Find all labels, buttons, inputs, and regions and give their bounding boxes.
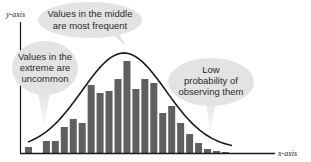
histogram-bar: [43, 141, 50, 153]
histogram-bar: [186, 134, 193, 153]
histogram-bar: [106, 91, 113, 153]
histogram-bar: [141, 79, 148, 153]
histogram-bar: [159, 113, 166, 153]
histogram-bar: [25, 147, 32, 153]
bubble-low-line-2: probability of: [184, 75, 238, 86]
histogram-bar: [177, 123, 184, 153]
histogram-bar: [150, 83, 157, 153]
histogram-bar: [213, 151, 220, 153]
histogram-bar: [88, 85, 95, 153]
annotation-extreme: Values in the extreme are uncommon: [12, 41, 78, 128]
bubble-low-line-3: observing them: [179, 86, 244, 97]
histogram-bar: [123, 61, 130, 153]
x-axis-label: x-axis: [277, 149, 297, 158]
histogram-bar: [115, 79, 122, 153]
histogram-bar: [195, 143, 202, 153]
histogram-diagram: y-axis x-axis Values in the extreme are …: [0, 0, 311, 162]
histogram-bar: [97, 93, 104, 153]
bubble-tail-extreme: [38, 92, 50, 128]
bubble-middle-line-1: Values in the middle: [48, 8, 133, 19]
bubble-extreme-line-2: extreme are: [20, 62, 71, 73]
bubble-middle-line-2: are most frequent: [53, 20, 128, 31]
histogram-bar: [168, 106, 175, 153]
bubble-low-line-1: Low: [202, 64, 220, 75]
histogram-bar: [61, 127, 68, 153]
histogram-bar: [132, 89, 139, 153]
bubble-extreme-line-3: uncommon: [22, 73, 69, 84]
annotation-middle: Values in the middle are most frequent: [38, 2, 142, 46]
histogram-bar: [204, 149, 211, 153]
bubble-extreme-line-1: Values in the: [18, 51, 72, 62]
histogram-bar: [79, 123, 86, 153]
histogram-bar: [52, 141, 59, 153]
y-axis-label: y-axis: [5, 10, 25, 19]
histogram-bar: [70, 119, 77, 153]
